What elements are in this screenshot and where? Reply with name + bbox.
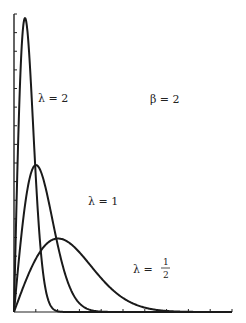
label-lambda-half: λ = 1 2: [133, 257, 170, 280]
label-lambda-half-prefix: λ =: [133, 263, 153, 276]
axes: [14, 14, 232, 312]
label-lambda-half-denominator: 2: [163, 270, 169, 280]
curve-lambda-half: [14, 239, 232, 312]
curve-lambda-2: [14, 18, 111, 312]
label-lambda-half-numerator: 1: [163, 257, 169, 267]
chart-canvas: λ = 2 β = 2 λ = 1 λ = 1 2: [0, 0, 246, 323]
curves: [14, 18, 232, 312]
label-beta: β = 2: [150, 93, 180, 106]
label-lambda-2: λ = 2: [38, 92, 68, 105]
label-lambda-1: λ = 1: [88, 195, 118, 208]
curve-lambda-1: [14, 165, 207, 312]
